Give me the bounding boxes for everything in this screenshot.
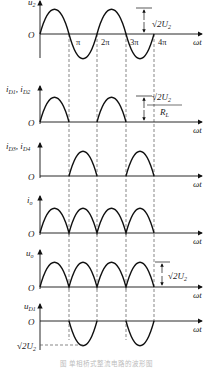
half-wave-current bbox=[40, 97, 126, 122]
tick-4pi: 4π bbox=[158, 37, 167, 47]
svg-text:ωt: ωt bbox=[193, 290, 202, 300]
svg-text:ωt: ωt bbox=[193, 324, 202, 334]
diode-voltage bbox=[69, 321, 154, 346]
panel-iD3-iD4: O iD3, iD4 ωt bbox=[6, 141, 202, 189]
panel-u2: O u2 π 2π 3π 4π ωt √2U2 bbox=[28, 0, 202, 59]
svg-text:ωt: ωt bbox=[193, 179, 202, 189]
tick-2pi: 2π bbox=[101, 37, 110, 47]
y-label-uo: uo bbox=[26, 248, 34, 259]
tick-3pi: 3π bbox=[130, 37, 139, 47]
uo-amplitude-label: √2U2 bbox=[168, 271, 187, 282]
x-axis-label: ωt bbox=[193, 37, 202, 47]
tick-pi: π bbox=[76, 37, 81, 47]
svg-text:ωt: ωt bbox=[193, 125, 202, 135]
y-label-iD3-iD4: iD3, iD4 bbox=[6, 141, 30, 152]
guide-lines bbox=[69, 34, 154, 340]
y-label-io: io bbox=[27, 195, 33, 206]
svg-text:O: O bbox=[28, 283, 35, 293]
current-peak-denominator: RL bbox=[159, 107, 170, 118]
panel-io: O io ωt bbox=[27, 195, 202, 246]
svg-text:O: O bbox=[28, 229, 35, 239]
svg-text:O: O bbox=[28, 317, 35, 327]
origin-label: O bbox=[28, 30, 35, 40]
rectifier-waveform-diagram: O u2 π 2π 3π 4π ωt √2U2 O iD1, iD2 ωt √2… bbox=[0, 0, 217, 370]
svg-text:O: O bbox=[28, 172, 35, 182]
svg-text:O: O bbox=[28, 118, 35, 128]
current-peak-numerator: √2U2 bbox=[152, 92, 171, 103]
figure-caption: 图 单相桥式整流电路的波形图 bbox=[60, 359, 153, 368]
panel-uD1: O uD1 ωt √2U2 bbox=[17, 301, 202, 352]
panel-uo: O uo ωt √2U2 bbox=[26, 248, 202, 300]
panel-iD1-iD2: O iD1, iD2 ωt √2U2 RL bbox=[6, 84, 202, 135]
y-label-iD1-iD2: iD1, iD2 bbox=[6, 84, 30, 95]
y-label-uD1: uD1 bbox=[24, 301, 36, 312]
svg-text:ωt: ωt bbox=[193, 236, 202, 246]
uD1-peak-label: √2U2 bbox=[17, 341, 36, 352]
amplitude-label: √2U2 bbox=[152, 19, 171, 30]
y-label-u2: u2 bbox=[28, 0, 36, 8]
half-wave-current bbox=[69, 151, 154, 176]
